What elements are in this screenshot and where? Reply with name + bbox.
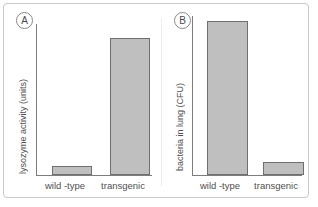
panel-label-a: A — [16, 12, 33, 29]
x-tick-label: wild -type — [192, 180, 248, 191]
plot-area-a — [36, 24, 152, 176]
bar — [263, 162, 304, 175]
panel-a: A lysozyme activity (units) wild -typetr… — [4, 4, 161, 199]
panel-b: B bacteria in lung (CFU) wild -typetrans… — [162, 4, 310, 199]
bar-group-b — [193, 16, 302, 175]
x-tick-labels-a: wild -typetransgenic — [36, 180, 152, 191]
panel-label-b: B — [174, 12, 191, 29]
bar — [52, 166, 92, 175]
plot-area-b — [192, 16, 302, 176]
x-tick-label: wild -type — [36, 180, 94, 191]
y-axis-label-a: lysozyme activity (units) — [18, 79, 28, 174]
y-axis-label-b: bacteria in lung (CFU) — [175, 83, 185, 171]
bar-group-a — [37, 24, 152, 175]
x-tick-label: transgenic — [94, 180, 152, 191]
x-axis-line-a — [36, 175, 152, 176]
x-tick-labels-b: wild -typetransgenic — [192, 180, 304, 191]
x-axis-line-b — [192, 175, 302, 176]
x-tick-label: transgenic — [248, 180, 304, 191]
bar — [110, 38, 150, 175]
bar — [207, 21, 248, 175]
figure-frame: A lysozyme activity (units) wild -typetr… — [3, 3, 309, 198]
